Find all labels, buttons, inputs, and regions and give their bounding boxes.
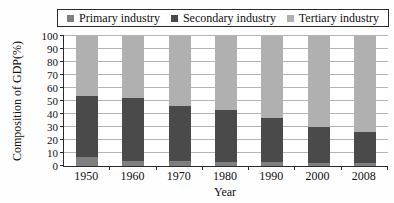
- legend-item-primary-industry: Primary industry: [67, 12, 160, 24]
- bar-segment: [76, 157, 98, 166]
- bar-segment: [261, 118, 283, 162]
- y-tick-label: 70: [32, 69, 58, 81]
- bar-1950: [76, 36, 98, 166]
- chart-legend: Primary industry Secondary industry Tert…: [57, 9, 389, 27]
- y-tick-label: 30: [32, 121, 58, 133]
- secondary-industry-swatch-icon: [171, 15, 178, 22]
- y-axis-tick: [60, 87, 64, 88]
- y-tick-label: 90: [32, 43, 58, 55]
- tertiary-industry-swatch-icon: [287, 15, 294, 22]
- bar-segment: [169, 36, 191, 106]
- bar-segment: [76, 96, 98, 157]
- bar-segment: [122, 98, 144, 160]
- gdp-composition-chart: Primary industry Secondary industry Tert…: [0, 0, 394, 203]
- y-axis-tick: [60, 139, 64, 140]
- x-tick-label: 1990: [248, 170, 294, 183]
- bar-2000: [308, 36, 330, 166]
- y-axis-title: Composition of GDP(%): [10, 41, 25, 161]
- plot-area: [63, 36, 388, 167]
- legend-label: Secondary industry: [183, 12, 276, 24]
- bar-segment: [354, 36, 376, 132]
- legend-label: Primary industry: [79, 12, 160, 24]
- y-tick-label: 10: [32, 147, 58, 159]
- bar-segment: [76, 36, 98, 96]
- bar-segment: [169, 106, 191, 161]
- bar-segment: [308, 163, 330, 166]
- bar-segment: [308, 36, 330, 127]
- y-axis-tick: [60, 100, 64, 101]
- legend-item-secondary-industry: Secondary industry: [171, 12, 276, 24]
- bar-segment: [308, 127, 330, 163]
- bar-segment: [261, 162, 283, 166]
- bar-1990: [261, 36, 283, 166]
- bar-segment: [122, 161, 144, 166]
- y-axis-tick: [60, 165, 64, 166]
- bar-segment: [169, 161, 191, 166]
- legend-item-tertiary-industry: Tertiary industry: [287, 12, 379, 24]
- bar-segment: [261, 36, 283, 118]
- bar-segment: [122, 36, 144, 98]
- x-axis-title: Year: [63, 185, 387, 200]
- y-tick-label: 50: [32, 95, 58, 107]
- x-axis-tick: [387, 167, 388, 170]
- bar-1980: [215, 36, 237, 166]
- x-tick-label: 2008: [341, 170, 387, 183]
- primary-industry-swatch-icon: [67, 15, 74, 22]
- x-tick-label: 2000: [295, 170, 341, 183]
- y-tick-label: 100: [32, 30, 58, 42]
- bar-segment: [354, 132, 376, 163]
- x-tick-label: 1980: [202, 170, 248, 183]
- x-tick-label: 1960: [109, 170, 155, 183]
- x-tick-label: 1950: [63, 170, 109, 183]
- y-axis-tick: [60, 35, 64, 36]
- y-tick-label: 60: [32, 82, 58, 94]
- y-axis-tick: [60, 152, 64, 153]
- bar-segment: [215, 162, 237, 166]
- y-axis-tick: [60, 113, 64, 114]
- bar-segment: [215, 36, 237, 110]
- y-tick-label: 20: [32, 134, 58, 146]
- y-axis-tick: [60, 48, 64, 49]
- y-tick-label: 80: [32, 56, 58, 68]
- bar-1970: [169, 36, 191, 166]
- y-axis-tick: [60, 126, 64, 127]
- y-tick-label: 40: [32, 108, 58, 120]
- bar-segment: [215, 110, 237, 162]
- bar-2008: [354, 36, 376, 166]
- y-axis-tick: [60, 61, 64, 62]
- y-axis-tick: [60, 74, 64, 75]
- bar-segment: [354, 163, 376, 166]
- legend-label: Tertiary industry: [299, 12, 379, 24]
- bar-1960: [122, 36, 144, 166]
- y-tick-label: 0: [32, 160, 58, 172]
- x-tick-label: 1970: [156, 170, 202, 183]
